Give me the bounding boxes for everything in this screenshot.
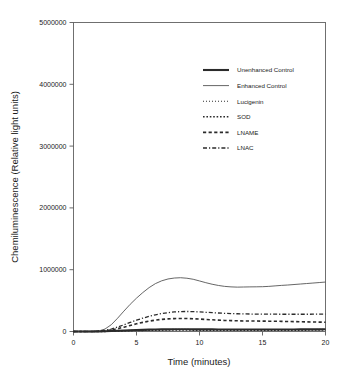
x-tick-label: 5 bbox=[135, 339, 139, 346]
y-tick-label: 2000000 bbox=[39, 204, 66, 211]
legend-label-unenhanced-control: Unenhanced Control bbox=[237, 66, 294, 73]
y-tick-label: 3000000 bbox=[39, 143, 66, 150]
chart-legend: Unenhanced ControlEnhanced ControlLucige… bbox=[203, 66, 294, 151]
x-tick-label: 20 bbox=[322, 339, 330, 346]
x-axis-ticks: 05101520 bbox=[72, 332, 330, 346]
y-tick-label: 1000000 bbox=[39, 266, 66, 273]
legend-label-enhanced-control: Enhanced Control bbox=[237, 82, 287, 89]
y-tick-label: 0 bbox=[63, 328, 67, 335]
y-axis-title: Chemiluminescence (Relative light units) bbox=[9, 91, 20, 263]
x-axis-title: Time (minutes) bbox=[168, 356, 231, 367]
x-tick-label: 0 bbox=[72, 339, 76, 346]
legend-label-lname: LNAME bbox=[237, 129, 258, 136]
legend-label-lucigenin: Lucigenin bbox=[237, 98, 264, 105]
x-tick-label: 10 bbox=[196, 339, 204, 346]
y-tick-label: 4000000 bbox=[39, 81, 66, 88]
chart-figure: 010000002000000300000040000005000000 051… bbox=[0, 0, 346, 378]
data-series-group bbox=[74, 278, 326, 332]
x-tick-label: 15 bbox=[259, 339, 267, 346]
y-tick-label: 5000000 bbox=[39, 19, 66, 26]
y-axis-ticks: 010000002000000300000040000005000000 bbox=[39, 19, 73, 335]
legend-label-sod: SOD bbox=[237, 113, 251, 120]
chart-canvas: 010000002000000300000040000005000000 051… bbox=[0, 0, 346, 378]
series-line-enhanced-control bbox=[74, 278, 326, 332]
legend-label-lnac: LNAC bbox=[237, 144, 254, 151]
